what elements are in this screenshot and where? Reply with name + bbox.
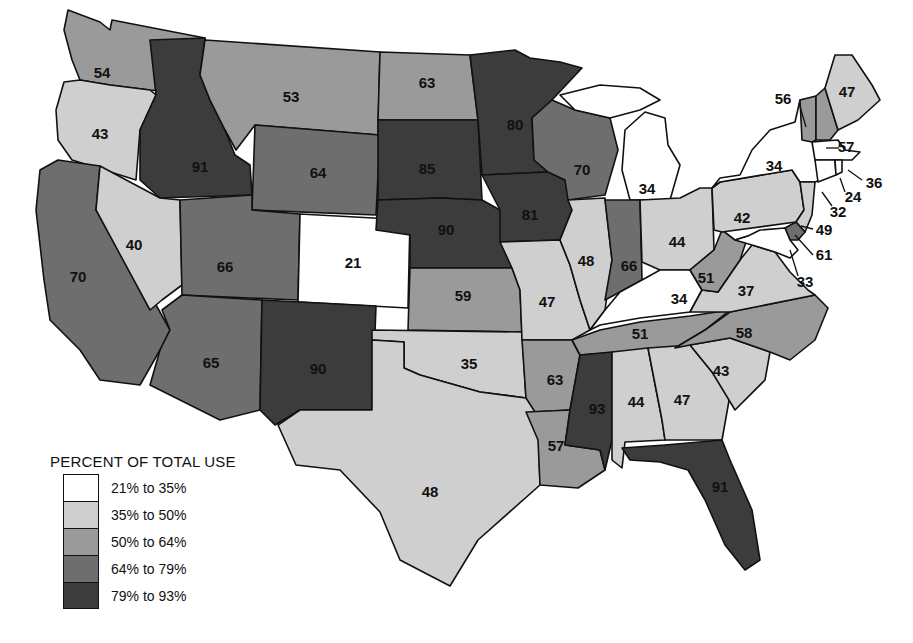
svg-text:64: 64	[310, 164, 327, 181]
svg-text:47: 47	[539, 293, 556, 310]
svg-text:37: 37	[738, 282, 755, 299]
legend-swatch	[63, 474, 99, 501]
svg-text:34: 34	[639, 180, 656, 197]
svg-text:57: 57	[548, 437, 565, 454]
svg-text:85: 85	[419, 160, 436, 177]
svg-text:36: 36	[866, 174, 883, 191]
svg-text:63: 63	[547, 371, 564, 388]
svg-text:58: 58	[736, 324, 753, 341]
legend-item: 21% to 35%	[50, 474, 236, 501]
legend-swatch	[63, 501, 99, 528]
legend-item: 50% to 64%	[50, 528, 236, 555]
svg-text:80: 80	[507, 116, 524, 133]
svg-text:34: 34	[671, 290, 688, 307]
svg-text:44: 44	[669, 233, 686, 250]
legend-title: PERCENT OF TOTAL USE	[50, 453, 236, 470]
legend-item: 35% to 50%	[50, 501, 236, 528]
svg-text:70: 70	[574, 161, 591, 178]
svg-text:91: 91	[712, 478, 729, 495]
legend-swatch	[63, 582, 99, 609]
svg-text:34: 34	[766, 157, 783, 174]
legend-label: 21% to 35%	[111, 480, 187, 496]
svg-text:63: 63	[419, 74, 436, 91]
svg-text:48: 48	[422, 483, 439, 500]
svg-text:90: 90	[438, 221, 455, 238]
state-ri	[835, 160, 842, 175]
svg-text:54: 54	[94, 64, 111, 81]
svg-text:61: 61	[816, 246, 833, 263]
legend-label: 50% to 64%	[111, 534, 187, 550]
svg-text:21: 21	[345, 254, 362, 271]
svg-text:40: 40	[126, 236, 143, 253]
svg-text:42: 42	[734, 209, 751, 226]
legend-label: 79% to 93%	[111, 588, 187, 604]
svg-text:59: 59	[455, 287, 472, 304]
svg-text:43: 43	[713, 362, 730, 379]
svg-text:44: 44	[628, 393, 645, 410]
svg-text:53: 53	[283, 88, 300, 105]
svg-text:43: 43	[92, 125, 109, 142]
svg-text:48: 48	[578, 252, 595, 269]
state-ct	[815, 160, 836, 182]
legend-label: 64% to 79%	[111, 561, 187, 577]
svg-text:66: 66	[621, 257, 638, 274]
legend-item: 64% to 79%	[50, 555, 236, 582]
svg-text:56: 56	[775, 90, 792, 107]
state-fl	[622, 440, 760, 570]
svg-text:24: 24	[845, 188, 862, 205]
svg-text:70: 70	[70, 268, 87, 285]
legend-label: 35% to 50%	[111, 507, 187, 523]
svg-text:90: 90	[310, 360, 327, 377]
svg-text:65: 65	[203, 354, 220, 371]
svg-text:49: 49	[816, 221, 833, 238]
state-vt	[800, 96, 816, 142]
svg-text:47: 47	[674, 391, 691, 408]
svg-text:81: 81	[522, 206, 539, 223]
svg-text:33: 33	[797, 273, 814, 290]
svg-text:93: 93	[589, 400, 606, 417]
svg-text:57: 57	[838, 138, 855, 155]
svg-text:91: 91	[192, 158, 209, 175]
svg-text:47: 47	[839, 83, 856, 100]
svg-text:51: 51	[632, 325, 649, 342]
svg-text:35: 35	[461, 355, 478, 372]
svg-text:51: 51	[698, 269, 715, 286]
legend-swatch	[63, 528, 99, 555]
legend-swatch	[63, 555, 99, 582]
legend: PERCENT OF TOTAL USE 21% to 35% 35% to 5…	[50, 453, 236, 609]
legend-item: 79% to 93%	[50, 582, 236, 609]
state-oh	[640, 188, 714, 270]
svg-text:66: 66	[217, 258, 234, 275]
